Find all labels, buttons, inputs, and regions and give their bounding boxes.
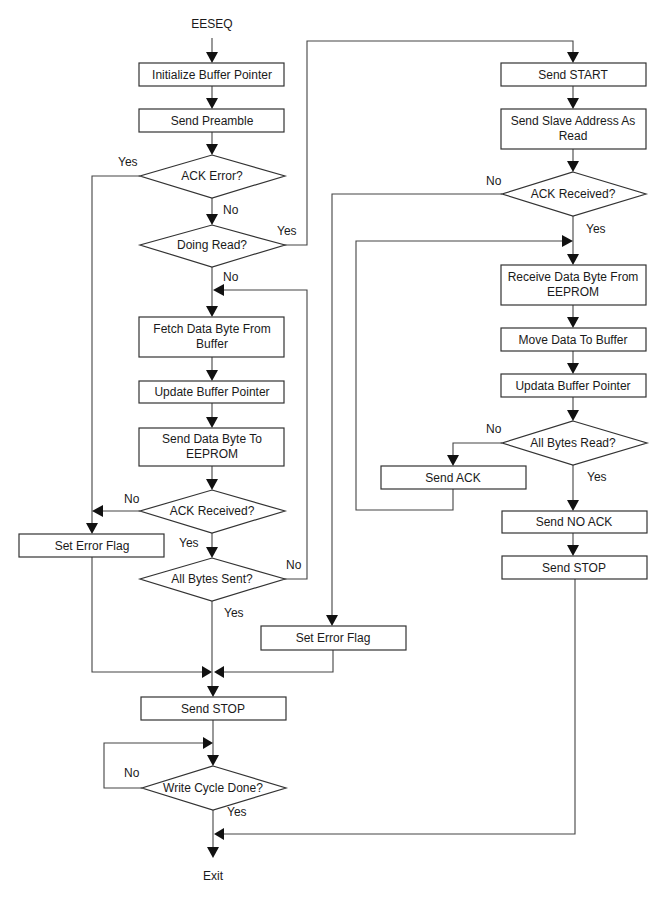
arrow-down-icon — [567, 161, 579, 172]
label-ack-error-no: No — [223, 203, 239, 217]
svg-text:Set Error Flag: Set Error Flag — [296, 631, 371, 645]
node-fetch-byte: Fetch Data Byte From Buffer — [139, 317, 284, 357]
node-send-stop-read: Send STOP — [502, 556, 647, 579]
label-doing-read-no: No — [223, 270, 239, 284]
arrow-down-icon — [206, 547, 218, 558]
svg-text:Set Error Flag: Set Error Flag — [55, 539, 130, 553]
label-all-bytes-sent-yes: Yes — [224, 606, 244, 620]
decision-ack-received-write: ACK Received? — [140, 490, 285, 533]
arrow-down-icon — [86, 523, 98, 534]
arrow-right-icon — [203, 737, 213, 749]
label-write-cycle-no: No — [124, 766, 140, 780]
exit-label: Exit — [203, 869, 224, 883]
svg-text:Send Preamble: Send Preamble — [171, 114, 254, 128]
svg-text:EEPROM: EEPROM — [547, 285, 599, 299]
arrow-down-icon — [567, 254, 579, 265]
svg-text:Write Cycle Done?: Write Cycle Done? — [163, 781, 263, 795]
arrow-down-icon — [207, 755, 219, 766]
arrow-left-icon — [92, 505, 103, 517]
arrow-down-icon — [567, 500, 579, 511]
arrow-left-icon — [214, 828, 224, 840]
svg-text:Receive Data Byte From: Receive Data Byte From — [508, 270, 639, 284]
svg-text:ACK Received?: ACK Received? — [170, 504, 255, 518]
svg-text:EEPROM: EEPROM — [186, 447, 238, 461]
svg-text:Send START: Send START — [538, 68, 608, 82]
svg-text:Send STOP: Send STOP — [181, 702, 245, 716]
svg-text:ACK Error?: ACK Error? — [181, 169, 243, 183]
node-update-pointer-write: Update Buffer Pointer — [139, 381, 284, 403]
arrow-left-icon — [214, 666, 224, 678]
svg-text:ACK Received?: ACK Received? — [531, 187, 616, 201]
arrow-down-icon — [207, 686, 219, 697]
arrow-down-icon — [326, 615, 338, 626]
label-write-cycle-yes: Yes — [227, 805, 247, 819]
arrow-down-icon — [567, 52, 579, 63]
node-send-byte: Send Data Byte To EEPROM — [139, 428, 284, 466]
node-send-ack: Send ACK — [381, 466, 526, 489]
svg-text:Move Data To Buffer: Move Data To Buffer — [519, 333, 628, 347]
arrow-down-icon — [206, 370, 218, 381]
arrow-down-icon — [206, 479, 218, 490]
label-ack-received-read-no: No — [486, 174, 502, 188]
label-all-bytes-sent-no: No — [286, 558, 302, 572]
label-all-bytes-read-no: No — [486, 422, 502, 436]
arrow-down-icon — [206, 214, 218, 225]
arrow-right-icon — [202, 666, 212, 678]
arrow-down-icon — [206, 417, 218, 428]
svg-text:All Bytes Read?: All Bytes Read? — [530, 436, 616, 450]
svg-text:All Bytes Sent?: All Bytes Sent? — [171, 572, 253, 586]
decision-doing-read: Doing Read? — [140, 225, 285, 267]
label-ack-received-write-no: No — [124, 492, 140, 506]
node-send-preamble: Send Preamble — [139, 109, 284, 132]
decision-write-cycle-done: Write Cycle Done? — [142, 766, 286, 810]
arrow-down-icon — [567, 545, 579, 556]
arrow-down-icon — [206, 52, 218, 63]
decision-all-bytes-sent: All Bytes Sent? — [140, 558, 285, 601]
label-ack-error-yes: Yes — [118, 155, 138, 169]
node-set-error-left: Set Error Flag — [19, 534, 164, 557]
node-receive-byte: Receive Data Byte From EEPROM — [501, 265, 646, 305]
arrow-down-icon — [567, 410, 579, 421]
svg-text:Update Buffer Pointer: Update Buffer Pointer — [154, 385, 269, 399]
node-update-pointer-read: Updata Buffer Pointer — [501, 374, 646, 397]
svg-text:Send Data Byte To: Send Data Byte To — [162, 432, 262, 446]
node-send-start: Send START — [501, 63, 646, 86]
node-send-stop-write: Send STOP — [141, 697, 286, 720]
arrow-left-icon — [213, 284, 224, 296]
arrow-down-icon — [206, 306, 218, 317]
decision-ack-received-read: ACK Received? — [502, 172, 646, 216]
svg-text:Doing Read?: Doing Read? — [177, 238, 247, 252]
svg-text:Fetch Data Byte From: Fetch Data Byte From — [153, 322, 270, 336]
node-init-buffer: Initialize Buffer Pointer — [139, 63, 284, 86]
svg-text:Buffer: Buffer — [196, 337, 228, 351]
arrow-down-icon — [207, 847, 219, 858]
arrow-down-icon — [567, 98, 579, 109]
arrow-down-icon — [447, 455, 459, 466]
decision-ack-error: ACK Error? — [140, 155, 285, 198]
arrow-down-icon — [567, 363, 579, 374]
svg-text:Read: Read — [559, 129, 588, 143]
svg-text:Send Slave Address As: Send Slave Address As — [511, 114, 636, 128]
node-send-slave-address: Send Slave Address As Read — [501, 109, 646, 149]
node-move-data: Move Data To Buffer — [501, 328, 646, 351]
node-set-error-mid: Set Error Flag — [261, 626, 406, 650]
arrow-down-icon — [206, 98, 218, 109]
label-ack-received-write-yes: Yes — [179, 536, 199, 550]
arrow-right-icon — [562, 235, 573, 247]
arrow-down-icon — [206, 144, 218, 155]
svg-text:Send NO ACK: Send NO ACK — [536, 515, 613, 529]
svg-text:Initialize Buffer Pointer: Initialize Buffer Pointer — [152, 68, 272, 82]
label-ack-received-read-yes: Yes — [586, 222, 606, 236]
label-all-bytes-read-yes: Yes — [587, 470, 607, 484]
flowchart: EESEQ Exit Initialize Buffer Pointer Sen… — [0, 0, 670, 902]
decision-all-bytes-read: All Bytes Read? — [502, 421, 647, 465]
label-doing-read-yes: Yes — [277, 224, 297, 238]
svg-text:Send STOP: Send STOP — [542, 561, 606, 575]
start-label: EESEQ — [191, 17, 232, 31]
svg-text:Updata Buffer Pointer: Updata Buffer Pointer — [515, 379, 630, 393]
node-send-no-ack: Send NO ACK — [502, 511, 647, 533]
arrow-down-icon — [567, 317, 579, 328]
svg-text:Send ACK: Send ACK — [425, 471, 480, 485]
